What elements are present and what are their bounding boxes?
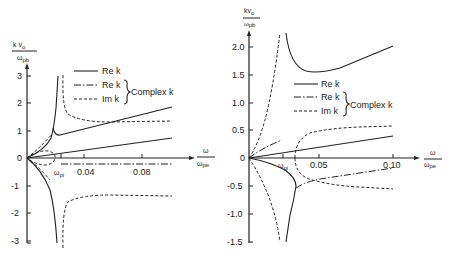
svg-text:-1.0: -1.0 — [227, 209, 243, 219]
left-legend: Re k Re k Im k Complex k — [74, 66, 174, 104]
legend-brace — [124, 80, 130, 104]
left-y-arrow-icon — [25, 63, 29, 69]
left-ylabel-numerator: k vo — [13, 41, 26, 50]
svg-text:0: 0 — [17, 153, 22, 163]
svg-text:3: 3 — [17, 71, 22, 81]
left-xlabel-denominator: ωpe — [197, 160, 210, 168]
svg-text:-0.5: -0.5 — [227, 181, 243, 191]
svg-text:0: 0 — [240, 153, 245, 163]
svg-text:-1.5: -1.5 — [227, 237, 243, 247]
svg-text:-3: -3 — [11, 236, 19, 246]
right-ylabel-denominator: ωpb — [244, 21, 256, 28]
legend-re-k-solid: Re k — [321, 79, 340, 89]
svg-text:1.0: 1.0 — [232, 98, 245, 108]
right-xlabel-denominator: ωpe — [424, 161, 437, 169]
right-ylabel-numerator: kvo — [244, 7, 255, 16]
left-x-arrow-icon — [189, 156, 195, 160]
right-x-ticks: 0.05 0.10 ωpi — [278, 154, 401, 171]
right-xlabel-numerator: ω — [430, 149, 436, 156]
right-curves — [249, 33, 393, 242]
svg-text:0.10: 0.10 — [383, 160, 401, 170]
left-wpi-label: ωpi — [54, 169, 64, 178]
legend-re-k-solid: Re k — [102, 66, 121, 76]
legend-im-k-complex: Im k — [321, 106, 338, 116]
right-legend: Re k Re k Im k Complex k — [294, 79, 393, 116]
svg-text:1.5: 1.5 — [232, 70, 245, 80]
right-y-arrow-icon — [247, 30, 251, 36]
left-xlabel-numerator: ω — [203, 147, 209, 154]
legend-complex-k-group: Complex k — [350, 100, 393, 110]
svg-text:-2: -2 — [11, 208, 19, 218]
svg-text:0.08: 0.08 — [133, 167, 151, 177]
dispersion-figure: k vo ωpb 3 2 1 0 -1 -2 -3 — [0, 0, 454, 260]
svg-text:2.0: 2.0 — [232, 42, 245, 52]
legend-complex-k-group: Complex k — [131, 87, 174, 97]
right-x-arrow-icon — [414, 156, 420, 160]
svg-text:0.5: 0.5 — [232, 125, 245, 135]
svg-text:2: 2 — [17, 98, 22, 108]
left-panel: k vo ωpb 3 2 1 0 -1 -2 -3 — [11, 41, 215, 248]
left-curves — [27, 75, 172, 248]
legend-re-k-complex: Re k — [321, 92, 340, 102]
svg-text:0.05: 0.05 — [310, 160, 328, 170]
left-ylabel-denominator: ωpb — [17, 54, 30, 63]
right-panel: kvo ωpb 2.0 1.5 1.0 0.5 0 -0.5 -1.0 -1.5 — [227, 7, 442, 247]
svg-text:-1: -1 — [11, 181, 19, 191]
legend-im-k-complex: Im k — [102, 94, 119, 104]
right-wpi-label: ωpi — [278, 162, 288, 171]
legend-re-k-complex: Re k — [102, 80, 121, 90]
svg-text:0.04: 0.04 — [77, 167, 95, 177]
svg-text:1: 1 — [17, 126, 22, 136]
